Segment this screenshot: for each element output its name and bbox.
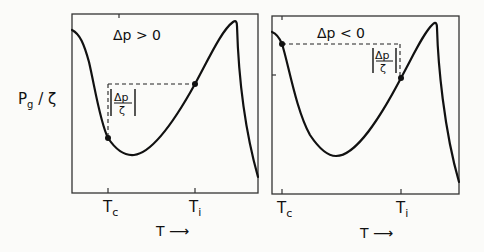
condition-label-right: Δp < 0 bbox=[317, 25, 365, 41]
panel-right-frame bbox=[272, 16, 459, 194]
curve-left bbox=[72, 21, 258, 177]
tick-label-tc-right: Tc bbox=[276, 199, 292, 220]
delta-p-over-zeta-right: Δp ζ bbox=[373, 48, 396, 75]
tick-label-ti-left: Ti bbox=[188, 198, 201, 219]
tick-label-ti-right: Ti bbox=[395, 199, 408, 220]
x-axis-label-left: T ⟶ bbox=[155, 223, 189, 239]
panel-right: Δp < 0 Δp ζ Tc Ti T ⟶ bbox=[272, 16, 459, 241]
delta-p-over-zeta-left: Δp ζ bbox=[111, 89, 135, 117]
svg-text:ζ: ζ bbox=[380, 62, 386, 75]
svg-text:Δp: Δp bbox=[114, 91, 129, 104]
y-axis-label: Pg / ζ bbox=[18, 90, 56, 110]
svg-text:Δp: Δp bbox=[375, 49, 390, 62]
point-ti-right bbox=[398, 75, 404, 81]
point-tc-right bbox=[279, 41, 285, 47]
point-tc-left bbox=[105, 135, 111, 141]
x-axis-label-right: T ⟶ bbox=[359, 225, 393, 241]
panel-left: Δp > 0 Δp ζ Tc Ti T ⟶ bbox=[72, 14, 258, 239]
curve-right bbox=[272, 23, 459, 182]
figure: Pg / ζ Δp > 0 Δp ζ Tc Ti T ⟶ Δp < 0 bbox=[0, 0, 484, 252]
svg-text:ζ: ζ bbox=[119, 104, 125, 117]
point-ti-left bbox=[192, 81, 198, 87]
condition-label-left: Δp > 0 bbox=[113, 27, 161, 43]
panel-left-frame bbox=[72, 14, 258, 193]
tick-label-tc-left: Tc bbox=[102, 198, 118, 219]
